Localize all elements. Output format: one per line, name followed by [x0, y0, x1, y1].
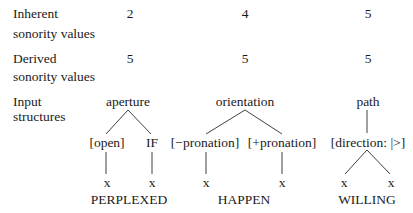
tree-branches: [0, 0, 413, 213]
